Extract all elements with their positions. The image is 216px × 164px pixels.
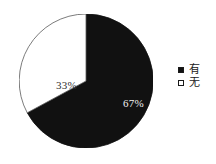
slice-data-label-wu: 33% (56, 80, 77, 91)
legend-item-you: 有 (178, 63, 214, 76)
legend-label-wu: 无 (189, 77, 200, 88)
slice-data-label-you: 67% (123, 98, 144, 109)
filled-square-marker-icon (178, 67, 184, 73)
pie-chart-figure: 67% 33% 有 无 (0, 0, 216, 164)
pie-graphic: 67% 33% (19, 14, 153, 148)
hollow-square-marker-icon (178, 80, 184, 86)
pie-svg (19, 14, 153, 148)
legend-label-you: 有 (189, 64, 200, 75)
chart-legend: 有 无 (178, 63, 214, 89)
legend-item-wu: 无 (178, 76, 214, 89)
